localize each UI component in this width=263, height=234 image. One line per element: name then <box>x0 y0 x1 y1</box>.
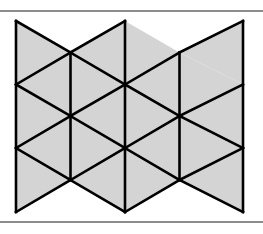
triangle-fill-group <box>16 21 243 212</box>
figure-container: Triangular tessellation <box>0 0 263 234</box>
bottom-divider-rule <box>0 221 263 223</box>
triangular-tessellation-diagram <box>0 0 263 234</box>
